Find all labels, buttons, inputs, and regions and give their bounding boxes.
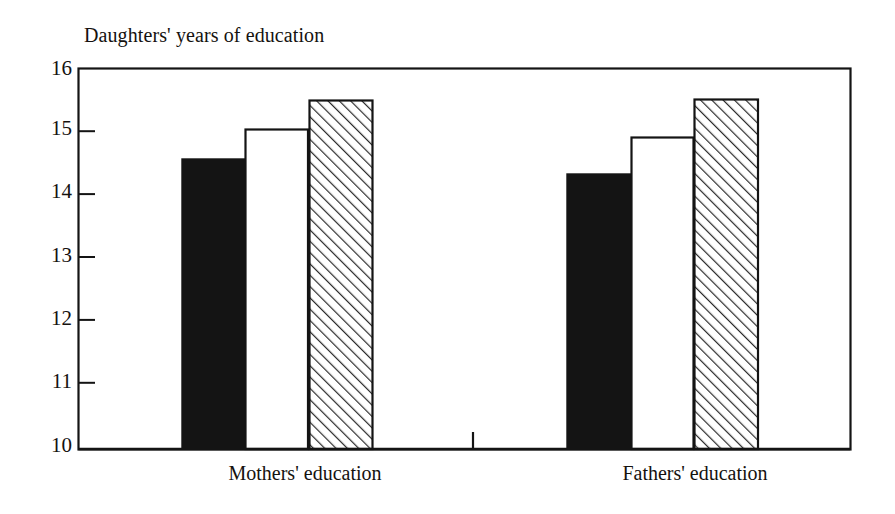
bar-fathers-black <box>567 174 631 449</box>
x-axis-category-label-mothers: Mothers' education <box>140 462 470 484</box>
bar-fathers-hatched <box>695 100 759 450</box>
bar-mothers-white <box>246 130 309 450</box>
x-axis-category-label-fathers: Fathers' education <box>530 462 860 484</box>
bar-fathers-white <box>632 138 694 450</box>
y-axis-ticks <box>79 131 96 383</box>
bar-mothers-hatched <box>310 101 373 450</box>
plot-area <box>0 0 895 514</box>
bar-mothers-black <box>182 159 245 449</box>
bar-chart: Daughters' years of education 16 15 14 1… <box>0 0 895 514</box>
